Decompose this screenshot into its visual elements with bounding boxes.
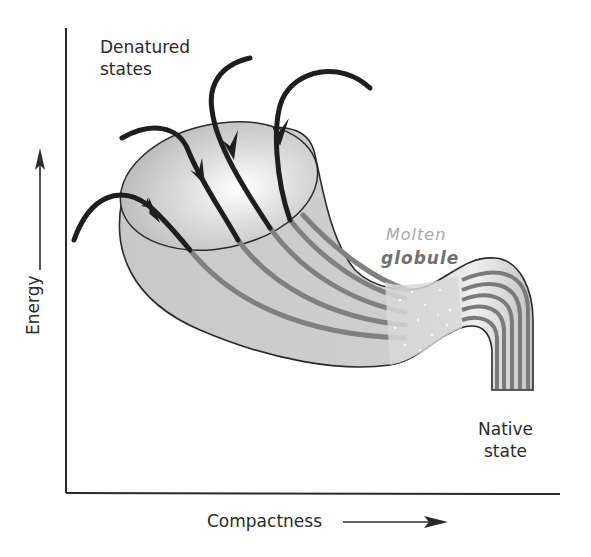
compactness-arrow-icon xyxy=(343,516,448,528)
denatured-line-2: states xyxy=(100,58,190,80)
energy-landscape-figure: Denatured states Molten globule Native s… xyxy=(0,0,591,557)
x-axis-line xyxy=(66,493,560,494)
molten-label: Molten xyxy=(386,225,446,244)
energy-funnel xyxy=(108,105,533,390)
denatured-states-label: Denatured states xyxy=(100,36,190,80)
energy-arrow-icon xyxy=(35,148,45,270)
native-line-1: Native xyxy=(478,418,533,440)
y-axis-label: Energy xyxy=(22,275,44,335)
molten-globule-region xyxy=(385,276,462,365)
globule-label: globule xyxy=(381,248,459,268)
native-state-label: Native state xyxy=(478,418,533,462)
funnel-diagram-svg xyxy=(0,0,591,557)
x-axis-label: Compactness xyxy=(207,510,322,532)
denatured-line-1: Denatured xyxy=(100,36,190,58)
native-line-2: state xyxy=(478,440,533,462)
